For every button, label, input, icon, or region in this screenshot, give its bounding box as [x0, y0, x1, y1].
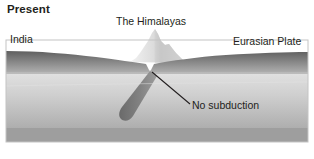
himalaya-collision-diagram: Present The Himalayas India Eurasian Pla… [0, 0, 314, 159]
india-plate-label: India [10, 34, 33, 45]
mountain-label: The Himalayas [116, 16, 186, 27]
block-base-band [6, 128, 308, 142]
figure-title: Present [7, 4, 50, 16]
no-subduction-annotation: No subduction [192, 100, 259, 111]
himalayas-mountain [130, 29, 186, 63]
eurasian-plate-label: Eurasian Plate [233, 36, 301, 47]
